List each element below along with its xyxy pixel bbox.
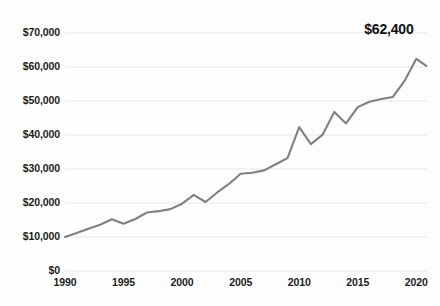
- y-axis-tick-label: $10,000: [2, 231, 60, 242]
- y-axis-tick: $30,000: [0, 163, 60, 174]
- x-axis-tick-label: 2010: [276, 276, 322, 288]
- y-axis-tick: $10,000: [0, 231, 60, 242]
- y-axis-tick-label: $30,000: [2, 163, 60, 174]
- y-axis-tick: $70,000: [0, 27, 60, 38]
- x-axis-tick-label: 2005: [218, 276, 264, 288]
- x-axis-tick-label: 2015: [335, 276, 381, 288]
- plot-area: [0, 0, 440, 306]
- y-axis-tick: $50,000: [0, 95, 60, 106]
- x-axis-tick-label: 2020: [393, 276, 439, 288]
- x-axis-tick-label: 1995: [101, 276, 147, 288]
- end-value-annotation: $62,400: [364, 21, 413, 37]
- x-axis-tick-label: 1990: [42, 276, 88, 288]
- y-axis-tick: $20,000: [0, 197, 60, 208]
- y-axis-tick: $60,000: [0, 61, 60, 72]
- gridlines: [65, 33, 428, 271]
- data-series-line: [65, 59, 426, 237]
- y-axis-tick-label: $20,000: [2, 197, 60, 208]
- y-axis-tick-label: $70,000: [2, 27, 60, 38]
- y-axis-tick: $40,000: [0, 129, 60, 140]
- line-chart: $0$10,000$20,000$30,000$40,000$50,000$60…: [0, 0, 440, 306]
- y-axis-tick: $0: [0, 265, 60, 276]
- y-axis-tick-label: $60,000: [2, 61, 60, 72]
- x-axis-tick-label: 2000: [159, 276, 205, 288]
- y-axis-tick-label: $40,000: [2, 129, 60, 140]
- y-axis-tick-label: $0: [2, 265, 60, 276]
- y-axis-tick-label: $50,000: [2, 95, 60, 106]
